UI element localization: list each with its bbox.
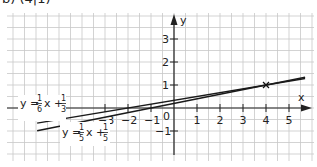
- svg-text:1: 1: [79, 123, 84, 132]
- coordinate-diagram: b) (4|1) −3−2−112345 −1123 x y 0 y = 1: [0, 0, 317, 167]
- svg-text:1: 1: [37, 94, 42, 103]
- svg-text:1: 1: [61, 94, 66, 103]
- svg-text:3: 3: [61, 105, 66, 114]
- y-tick-label: 1: [162, 79, 169, 92]
- x-tick-label: −2: [121, 114, 137, 127]
- exercise-label: b) (4|1): [2, 0, 51, 6]
- y-tick-label: 2: [162, 56, 169, 69]
- y-axis-label: y: [180, 14, 187, 27]
- svg-text:5: 5: [103, 134, 108, 143]
- equation-label-1: y = 1 6 x + 1 3: [18, 94, 66, 121]
- x-axis-label: x: [298, 91, 305, 104]
- svg-text:6: 6: [37, 105, 42, 114]
- x-tick-label: 1: [194, 114, 201, 127]
- graph-canvas: −3−2−112345 −1123 x y 0 y = 1 6 x + 1 3 …: [0, 0, 317, 167]
- x-tick-label: 3: [240, 114, 247, 127]
- svg-text:1: 1: [103, 123, 108, 132]
- svg-text:5: 5: [79, 134, 84, 143]
- x-axis-arrow-icon: [301, 105, 312, 112]
- equation-label-2: y = 1 5 x + 1 5: [60, 122, 110, 146]
- x-tick-label: 4: [263, 114, 270, 127]
- y-tick-label: −1: [155, 125, 171, 138]
- y-tick-label: 3: [162, 33, 169, 46]
- x-tick-label: 2: [217, 114, 224, 127]
- origin-label: 0: [163, 110, 170, 123]
- x-tick-label: 5: [286, 114, 293, 127]
